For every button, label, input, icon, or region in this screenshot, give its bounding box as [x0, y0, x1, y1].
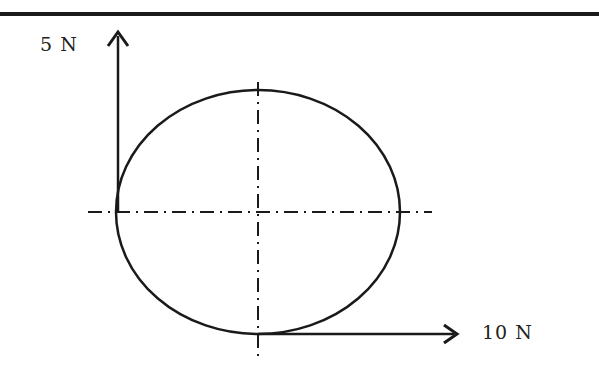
vertical-force-label: 5 N: [40, 33, 78, 55]
horizontal-force-label: 10 N: [482, 321, 533, 343]
